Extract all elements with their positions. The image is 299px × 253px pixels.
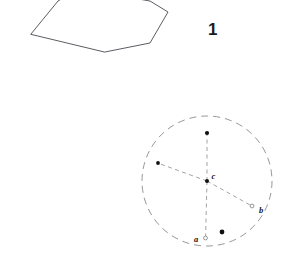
radius-up-endpoint-marker (205, 131, 209, 135)
center-point-marker (205, 179, 209, 183)
figure-canvas: c b a (0, 0, 299, 253)
radius-upper-left-line (159, 164, 207, 182)
figure-root: c b a 1 (0, 0, 299, 253)
point-b-label: b (259, 205, 263, 215)
figure-number: 1 (208, 21, 217, 38)
radius-lower-right-line (207, 181, 251, 206)
free-dot-marker (220, 230, 225, 235)
radius-lower-right-endpoint-marker (250, 204, 254, 208)
radius-upper-left-endpoint-marker (156, 161, 160, 165)
point-a-label: a (194, 234, 199, 244)
irregular-polygon (31, 0, 168, 52)
radius-down-endpoint-marker (204, 236, 208, 240)
center-point-label: c (212, 171, 216, 181)
radius-down-line (206, 181, 207, 236)
